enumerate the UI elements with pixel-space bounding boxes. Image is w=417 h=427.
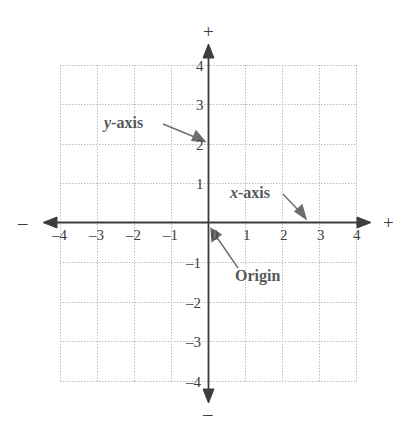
y-tick-label: 2 <box>196 138 204 153</box>
x-axis-callout-label: x-axis <box>230 185 270 201</box>
origin-callout-arrow-shaft <box>216 236 238 268</box>
x-tick-label: 4 <box>353 228 361 243</box>
y-axis-callout-rest: -axis <box>111 114 143 131</box>
y-axis-callout-arrow-shaft <box>163 124 197 138</box>
y-axis-positive-sign: + <box>203 22 214 41</box>
y-tick-label: –3 <box>186 335 201 350</box>
y-tick-label: 1 <box>196 177 204 192</box>
x-tick-label: 3 <box>317 228 325 243</box>
origin-callout-label: Origin <box>235 268 280 284</box>
y-tick-label: –1 <box>186 256 201 271</box>
y-axis-callout-label: y-axis <box>104 115 143 131</box>
y-tick-label: –4 <box>186 375 201 390</box>
y-tick-label: 4 <box>196 59 204 74</box>
y-tick-label: –2 <box>186 296 201 311</box>
x-axis-callout-rest: -axis <box>238 184 270 201</box>
x-tick-label: 0 <box>211 228 219 243</box>
x-tick-label: –1 <box>163 228 178 243</box>
x-axis-callout-italic: x <box>230 184 238 201</box>
x-axis-callout-arrowhead <box>295 205 306 219</box>
x-axis-positive-sign: + <box>383 213 394 232</box>
y-axis-arrowhead-bottom <box>203 389 214 403</box>
figure-svg <box>0 0 417 427</box>
x-tick-label: 1 <box>243 228 251 243</box>
x-tick-label: 2 <box>280 228 288 243</box>
axes <box>43 44 371 403</box>
x-axis-negative-sign: – <box>18 213 28 232</box>
y-axis-negative-sign: – <box>203 404 213 423</box>
x-tick-label: –4 <box>52 228 67 243</box>
coordinate-plane-figure: –4 –3 –2 –1 0 1 2 3 4 4 3 2 1 –1 –2 –3 –… <box>0 0 417 427</box>
y-tick-label: 3 <box>196 98 204 113</box>
x-tick-label: –3 <box>89 228 104 243</box>
y-axis-arrowhead-top <box>203 44 214 58</box>
x-tick-label: –2 <box>126 228 141 243</box>
